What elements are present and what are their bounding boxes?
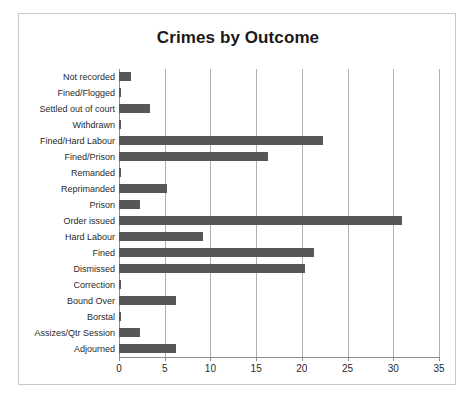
value-axis-tick-label: 25: [342, 362, 353, 376]
tick-mark: [119, 357, 120, 361]
bar-row: [119, 85, 439, 101]
bar[interactable]: [119, 344, 176, 353]
category-axis-baseline: [119, 357, 439, 358]
plot-area: [119, 69, 439, 357]
category-axis-tick-label: Bound Over: [19, 293, 115, 309]
category-axis-tick-label: Fined: [19, 245, 115, 261]
gridline: [439, 69, 440, 357]
value-axis-tick-label: 30: [388, 362, 399, 376]
tick-mark: [348, 357, 349, 361]
value-axis-labels: 05101520253035: [119, 362, 439, 378]
bar[interactable]: [119, 88, 121, 97]
category-axis-tick-label: Reprimanded: [19, 181, 115, 197]
chart-frame: Crimes by Outcome Not recordedFined/Flog…: [18, 13, 456, 385]
tick-mark: [439, 357, 440, 361]
bar-row: [119, 229, 439, 245]
value-axis-tick-label: 15: [251, 362, 262, 376]
bar[interactable]: [119, 104, 150, 113]
category-axis-tick-label: Correction: [19, 277, 115, 293]
tick-mark: [302, 357, 303, 361]
category-axis-tick-label: Fined/Flogged: [19, 85, 115, 101]
category-axis-tick-label: Remanded: [19, 165, 115, 181]
category-axis-tick-label: Assizes/Qtr Session: [19, 325, 115, 341]
bar-row: [119, 325, 439, 341]
bar-row: [119, 341, 439, 357]
category-axis-tick-label: Hard Labour: [19, 229, 115, 245]
bar[interactable]: [119, 264, 305, 273]
value-axis-tick-label: 10: [205, 362, 216, 376]
bar[interactable]: [119, 216, 402, 225]
category-axis-tick-label: Adjourned: [19, 341, 115, 357]
category-axis-tick-label: Prison: [19, 197, 115, 213]
bar-row: [119, 133, 439, 149]
bar[interactable]: [119, 184, 167, 193]
bar-row: [119, 213, 439, 229]
value-axis-tick-label: 20: [296, 362, 307, 376]
category-axis-tick-label: Settled out of court: [19, 101, 115, 117]
bar-row: [119, 165, 439, 181]
bar-row: [119, 309, 439, 325]
value-axis-tick-label: 5: [162, 362, 168, 376]
bar[interactable]: [119, 248, 314, 257]
category-axis-tick-label: Dismissed: [19, 261, 115, 277]
category-axis-tick-label: Fined/Prison: [19, 149, 115, 165]
bar-row: [119, 181, 439, 197]
value-axis-tick-label: 0: [116, 362, 122, 376]
bar-row: [119, 117, 439, 133]
category-axis-tick-label: Borstal: [19, 309, 115, 325]
category-axis-tick-label: Fined/Hard Labour: [19, 133, 115, 149]
bar[interactable]: [119, 280, 121, 289]
bar-row: [119, 277, 439, 293]
bar-row: [119, 197, 439, 213]
tick-mark: [210, 357, 211, 361]
category-axis-tick-label: Not recorded: [19, 69, 115, 85]
bar[interactable]: [119, 312, 121, 321]
bar[interactable]: [119, 168, 121, 177]
bar-row: [119, 293, 439, 309]
bar[interactable]: [119, 328, 140, 337]
bar-row: [119, 101, 439, 117]
bar[interactable]: [119, 296, 176, 305]
bar[interactable]: [119, 232, 203, 241]
category-axis-tick-label: Withdrawn: [19, 117, 115, 133]
category-axis-tick-label: Order issued: [19, 213, 115, 229]
tick-mark: [256, 357, 257, 361]
chart-title: Crimes by Outcome: [19, 28, 457, 48]
tick-mark: [165, 357, 166, 361]
bar[interactable]: [119, 120, 121, 129]
bar-row: [119, 261, 439, 277]
category-axis-labels: Not recordedFined/FloggedSettled out of …: [19, 69, 115, 357]
bar-series: [119, 69, 439, 357]
bar-row: [119, 149, 439, 165]
bar[interactable]: [119, 72, 131, 81]
tick-mark: [393, 357, 394, 361]
value-axis-tick-label: 35: [433, 362, 444, 376]
bar[interactable]: [119, 152, 268, 161]
bar-row: [119, 69, 439, 85]
bar-row: [119, 245, 439, 261]
bar[interactable]: [119, 200, 140, 209]
bar[interactable]: [119, 136, 323, 145]
